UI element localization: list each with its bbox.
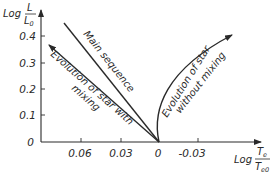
mixing-label-line1: Evolution of star with	[49, 48, 136, 127]
y-tick-label: 0.2	[19, 83, 36, 95]
svg-text:L0: L0	[24, 15, 34, 28]
svg-text:L: L	[27, 2, 33, 13]
y-tick-label: 0.1	[19, 109, 36, 121]
x-tick-label: 0	[155, 147, 162, 159]
svg-text:Log: Log	[234, 154, 252, 165]
y-tick-label: 0.4	[19, 30, 36, 42]
y-tick-label: 0.3	[19, 57, 36, 69]
svg-text:Log: Log	[3, 8, 21, 19]
x-axis-label: Log Te Te0	[234, 146, 270, 174]
y-ticks	[41, 36, 45, 115]
y-axis-label: Log L L0	[3, 2, 36, 28]
x-ticks	[81, 138, 198, 142]
svg-text:Te0: Te0	[255, 161, 269, 174]
x-tick-label: -0.03	[178, 147, 205, 159]
hr-evolution-diagram: 0.4 0.3 0.2 0.1 0 0.06 0.03 0 -0.03 Log …	[0, 0, 271, 178]
x-tick-label: 0.03	[109, 147, 132, 159]
x-tick-label: 0.06	[68, 147, 92, 159]
svg-text:Te: Te	[257, 146, 267, 159]
y-tick-label: 0	[27, 136, 34, 148]
